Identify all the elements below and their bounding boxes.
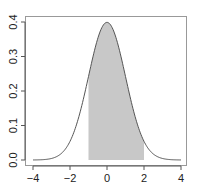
y-axis: 0.00.10.20.30.4: [7, 14, 25, 167]
x-tick-label: −2: [64, 172, 77, 184]
x-tick-label: 2: [141, 172, 147, 184]
y-tick-label: 0.2: [7, 83, 19, 98]
y-tick-label: 0.4: [7, 14, 19, 29]
y-tick-label: 0.1: [7, 118, 19, 133]
normal-density-chart: −4−2024 0.00.10.20.30.4: [0, 0, 198, 191]
x-tick-label: 0: [104, 172, 110, 184]
y-tick-label: 0.3: [7, 49, 19, 64]
x-tick-label: −4: [27, 172, 40, 184]
x-axis: −4−2024: [27, 166, 184, 184]
x-tick-label: 4: [178, 172, 184, 184]
y-tick-label: 0.0: [7, 152, 19, 167]
